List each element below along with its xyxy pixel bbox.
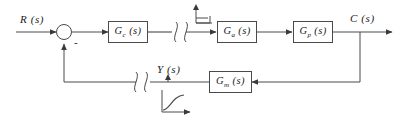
input-signal-label: R (s) bbox=[20, 14, 44, 25]
break-symbol-forward-right bbox=[185, 22, 188, 42]
step-icon-arrow-up bbox=[193, 4, 199, 10]
block-measurement-label: Gm (s) bbox=[216, 75, 245, 89]
block-measurement[interactable]: Gm (s) bbox=[209, 71, 252, 93]
block-controller-label: Gc (s) bbox=[115, 25, 142, 39]
block-diagram-canvas: - R (s) C (s) Y (s) Gc (s) Ga (s) Gp (s)… bbox=[0, 0, 404, 120]
wire-network bbox=[0, 0, 404, 120]
output-signal-label: C (s) bbox=[350, 13, 375, 24]
block-process[interactable]: Gp (s) bbox=[293, 21, 333, 43]
summing-junction-minus-sign: - bbox=[74, 36, 78, 48]
block-controller[interactable]: Gc (s) bbox=[108, 21, 148, 43]
block-actuator[interactable]: Ga (s) bbox=[217, 21, 257, 43]
feedback-signal-label: Y (s) bbox=[157, 64, 180, 75]
summing-junction[interactable] bbox=[56, 24, 72, 40]
block-process-label: Gp (s) bbox=[299, 25, 326, 39]
response-icon-curve bbox=[163, 95, 184, 110]
break-symbol-feedback-left bbox=[135, 72, 138, 92]
break-symbol-feedback-right bbox=[145, 72, 148, 92]
block-actuator-label: Ga (s) bbox=[223, 25, 250, 39]
step-icon-step bbox=[196, 16, 210, 23]
break-symbol-forward-left bbox=[175, 22, 178, 42]
